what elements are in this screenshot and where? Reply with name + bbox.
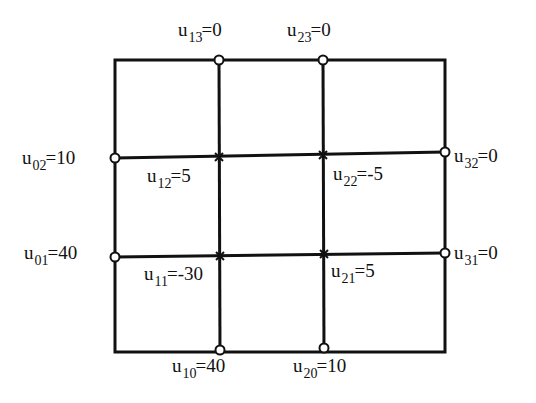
label-u01: u01=40 [24, 243, 77, 262]
grid-line-horizontal-lower [115, 253, 445, 257]
grid-line-horizontal-upper [115, 152, 445, 158]
label-u20: u20=10 [293, 356, 346, 375]
label-u10: u10=40 [172, 356, 225, 375]
node-marker-u31 [441, 249, 450, 258]
grid-outer-boundary [115, 60, 445, 352]
grid-line-vertical-1 [219, 60, 220, 352]
label-u22: u22=-5 [333, 164, 383, 183]
node-marker-u23 [319, 56, 328, 65]
grid-line-vertical-2 [323, 60, 324, 352]
grid-diagram [0, 0, 536, 403]
label-u12: u12=5 [147, 166, 191, 185]
label-u02: u02=10 [22, 148, 75, 167]
node-marker-u02 [111, 154, 120, 163]
label-u32: u32=0 [454, 146, 498, 165]
node-marker-u01 [111, 253, 120, 262]
label-u21: u21=5 [331, 261, 375, 280]
node-marker-u10 [216, 346, 225, 355]
label-u13: u13=0 [178, 20, 222, 39]
node-marker-u32 [441, 148, 450, 157]
label-u31: u31=0 [454, 243, 498, 262]
node-marker-u13 [215, 56, 224, 65]
node-marker-u20 [320, 344, 329, 353]
label-u11: u11=-30 [144, 264, 203, 283]
label-u23: u23=0 [287, 20, 331, 39]
